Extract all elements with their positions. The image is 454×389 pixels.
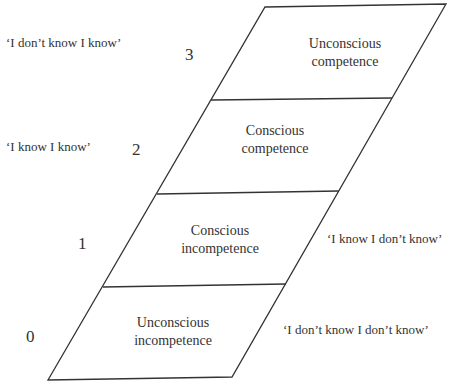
stage-conscious-competence: Conscious competence	[205, 122, 345, 158]
stage-conscious-incompetence: Conscious incompetence	[150, 222, 290, 258]
stage-line1: Unconscious	[275, 35, 415, 53]
quote-3: ‘I don’t know I know’	[6, 35, 121, 51]
stage-line2: incompetence	[103, 332, 243, 350]
stage-line1: Conscious	[150, 222, 290, 240]
stage-line2: incompetence	[150, 240, 290, 258]
stage-line2: competence	[275, 53, 415, 71]
stage-line1: Conscious	[205, 122, 345, 140]
stage-unconscious-incompetence: Unconscious incompetence	[103, 314, 243, 350]
level-number-2: 2	[132, 140, 141, 160]
quote-1: ‘I know I don’t know’	[327, 231, 442, 247]
stage-unconscious-competence: Unconscious competence	[275, 35, 415, 71]
stage-line2: competence	[205, 140, 345, 158]
quote-0: ‘I don’t know I don’t know’	[283, 322, 429, 338]
stage-line1: Unconscious	[103, 314, 243, 332]
level-number-0: 0	[26, 327, 35, 347]
level-number-1: 1	[78, 234, 87, 254]
divider-2-1	[157, 191, 339, 194]
divider-1-0	[103, 284, 286, 287]
level-number-3: 3	[185, 45, 194, 65]
divider-3-2	[211, 98, 392, 100]
quote-2: ‘I know I know’	[6, 139, 91, 155]
